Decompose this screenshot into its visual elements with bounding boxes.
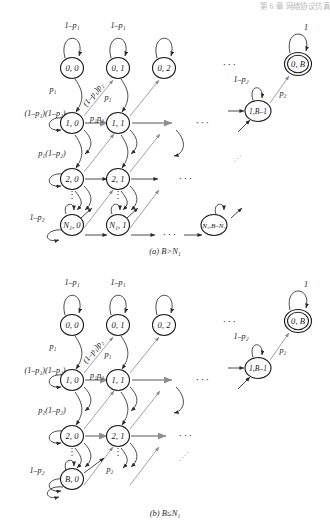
panel-b-canvas: 0, 0 1, 0 2, 0 0, 1 1, 1 2, 1 0, 2 B, 0 … <box>0 272 330 532</box>
node-label: 0, 1 <box>112 320 125 330</box>
edge-label: p₁p₂ <box>89 371 104 380</box>
node-label: 2, 1 <box>112 174 125 184</box>
edge-label: p₁ <box>49 342 57 351</box>
figure-page: 第 6 章 网络协议仿真 <box>0 0 330 532</box>
vertical-ellipsis: ⋮ <box>67 189 77 200</box>
edge-label: 1–p₂ <box>29 466 44 475</box>
edge-label: 1 <box>304 280 308 289</box>
edge-label: 1–p₁ <box>64 278 79 287</box>
node-label: 0, 1 <box>112 63 125 73</box>
ellipsis: ··· <box>178 429 193 441</box>
node-label: 0, 2 <box>158 63 172 73</box>
edge-label: (1–p₁)(1–p₂) <box>24 109 65 118</box>
panel-b-caption: (b) B≤N₁ <box>0 508 330 518</box>
edge-label: p₁ <box>104 93 112 102</box>
ellipsis: ··· <box>195 116 210 128</box>
edge-label: 1–p₁ <box>64 21 79 30</box>
ellipsis: ··· <box>195 373 210 385</box>
node-label: 2, 0 <box>66 431 80 441</box>
node-label: N₁, 1 <box>108 220 126 230</box>
node-label: 1, 0 <box>66 118 80 128</box>
diagram-panel-b: 0, 0 1, 0 2, 0 0, 1 1, 1 2, 1 0, 2 B, 0 … <box>0 272 330 532</box>
node-label: N₁,B–N₁ <box>201 222 226 230</box>
diagram-panel-a: 0, 0 1, 0 2, 0 N₁, 0 0, 1 1, 1 2, 1 N₁, … <box>0 8 330 264</box>
edge-label: 1 <box>304 23 308 32</box>
node-label: 1,B–1 <box>249 107 267 116</box>
ellipsis: ··· <box>178 172 193 184</box>
edge-label: 1–p₂ <box>29 213 44 222</box>
ellipsis: ··· <box>222 58 237 70</box>
node-label: 0, 0 <box>66 63 80 73</box>
node-label: 0, 2 <box>158 320 172 330</box>
vertical-ellipsis: ⋮ <box>67 446 77 457</box>
ellipsis: ··· <box>162 228 177 240</box>
node-label: 2, 1 <box>112 431 125 441</box>
edge-label: p₂ <box>106 465 114 474</box>
edge-label: p₁ <box>49 85 57 94</box>
edge-label: p₁p₂ <box>89 114 104 123</box>
panel-a-caption: (a) B>N₁ <box>0 246 330 256</box>
edge-label: p₂ <box>279 89 287 98</box>
node-label: 2, 0 <box>66 174 80 184</box>
node-label: 1, 1 <box>112 375 125 385</box>
node-label: 1,B–1 <box>249 364 267 373</box>
node-label: 1, 1 <box>112 118 125 128</box>
edge-label: (1–p₁)(1–p₂) <box>24 366 65 375</box>
node-label: N₁, 0 <box>62 220 81 230</box>
vertical-ellipsis: ⋮ <box>113 446 123 457</box>
edge-label: p₁ <box>104 350 112 359</box>
edge-label: 1–p₂ <box>233 332 248 341</box>
vertical-ellipsis: ⋮ <box>113 189 123 200</box>
edge-label: 1–p₁ <box>110 21 125 30</box>
diagonal-ellipsis: ···· <box>176 448 193 465</box>
edge-label: 1–p₁ <box>110 278 125 287</box>
edge-label: p₂ <box>279 346 287 355</box>
node-label: 0, B <box>291 59 306 69</box>
panel-a-canvas: 0, 0 1, 0 2, 0 N₁, 0 0, 1 1, 1 2, 1 N₁, … <box>0 8 330 264</box>
node-label: B, 0 <box>65 474 80 484</box>
diagonal-ellipsis: ··· <box>231 151 245 165</box>
edge-label: p₁(1–p₂) <box>37 406 66 415</box>
edge-label: p₁(1–p₂) <box>37 149 66 158</box>
node-label: 0, B <box>291 316 306 326</box>
node-label: 1, 0 <box>66 375 80 385</box>
node-label: 0, 0 <box>66 320 80 330</box>
ellipsis: ··· <box>222 315 237 327</box>
edge-label: 1–p₂ <box>233 75 248 84</box>
